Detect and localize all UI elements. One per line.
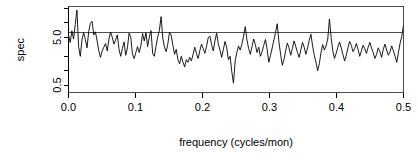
y-tick-label: 5.0 — [51, 30, 63, 45]
series-group — [69, 10, 404, 83]
y-tick-label: 0.5 — [51, 77, 63, 92]
y-axis-ticks — [64, 7, 69, 93]
x-axis-title: frequency (cycles/mon) — [179, 136, 293, 148]
x-tick-label: 0.2 — [195, 101, 210, 113]
y-tick-label-group: 5.00.5 — [51, 30, 63, 93]
x-tick-label: 0.5 — [396, 101, 411, 113]
x-axis-ticks — [69, 93, 404, 98]
spectrum-plot-figure: 5.00.5 0.00.10.20.30.40.5 spec frequency… — [0, 0, 418, 160]
x-tick-label: 0.3 — [262, 101, 277, 113]
x-tick-label: 0.1 — [128, 101, 143, 113]
y-axis-title: spec — [14, 37, 26, 61]
plot-canvas: 5.00.5 0.00.10.20.30.40.5 spec frequency… — [0, 0, 418, 160]
x-tick-label-group: 0.00.10.20.30.40.5 — [61, 101, 411, 113]
x-tick-label: 0.4 — [329, 101, 344, 113]
spec-series-line — [69, 10, 404, 83]
x-tick-label: 0.0 — [61, 101, 76, 113]
